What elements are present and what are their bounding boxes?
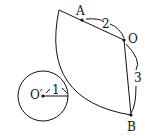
label-O: O bbox=[128, 32, 138, 46]
point-B bbox=[129, 113, 132, 116]
label-length-3: 3 bbox=[134, 71, 142, 85]
point-A bbox=[80, 18, 83, 21]
line-O-to-B bbox=[124, 40, 131, 115]
label-O-prime: O′ bbox=[30, 88, 43, 102]
line-corner-to-O bbox=[59, 10, 124, 40]
label-B: B bbox=[127, 120, 136, 134]
label-A: A bbox=[75, 4, 85, 18]
point-O bbox=[122, 38, 125, 41]
label-radius-1: 1 bbox=[52, 83, 60, 97]
geometry-diagram: A O B O′ 1 2 3 bbox=[0, 0, 145, 138]
label-length-2: 2 bbox=[102, 17, 110, 31]
